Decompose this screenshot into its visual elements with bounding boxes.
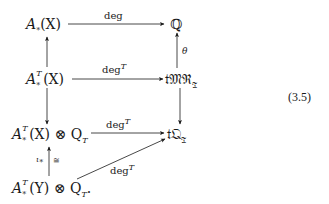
node-rationals: ℚ — [170, 16, 182, 32]
node-a-star-x-arg: (X) — [40, 16, 61, 32]
label-iota-star: ι* — [36, 154, 43, 166]
label-deg-top: deg — [104, 10, 123, 22]
node-rationals-text: ℚ — [170, 16, 182, 32]
label-degT-lower-sup: T — [125, 117, 130, 126]
label-degT-lower-text: deg — [106, 119, 125, 130]
label-iota-sub: * — [39, 158, 43, 167]
node-atyq-arg: (Y) ⊗ Q — [29, 180, 81, 196]
node-a-star-t-y-tensor-q: AT*(Y) ⊗ QT. — [12, 180, 91, 196]
equation-number: (3.5) — [288, 90, 311, 105]
label-iso-text: ≅ — [53, 156, 60, 165]
node-atxq-qsub: T — [82, 136, 87, 145]
node-tmr: 𝔱𝔐ℜ𝔗 — [165, 71, 197, 87]
node-atyq-trail: . — [87, 180, 91, 196]
node-atyq-base: A — [12, 180, 22, 196]
node-tq-text: 𝔱𝔔 — [167, 126, 181, 142]
label-degT-middle: degT — [102, 64, 126, 76]
label-degT-lower: degT — [106, 119, 130, 131]
label-theta: θ — [182, 45, 187, 57]
label-isomorphic: ≅ — [53, 155, 60, 167]
node-a-star-x: A*(X) — [26, 16, 61, 32]
node-tmr-text: 𝔱𝔐ℜ — [165, 71, 192, 87]
label-degT-diagonal: degT — [110, 165, 134, 177]
label-degT-diagonal-sup: T — [129, 163, 134, 172]
node-a-star-t-x: AT*(X) — [26, 71, 64, 87]
node-atxq-base: A — [12, 126, 22, 142]
equation-number-text: (3.5) — [288, 90, 311, 104]
node-tmr-sub: 𝔗 — [192, 81, 197, 90]
node-a-star-t-x-tensor-q: AT*(X) ⊗ QT — [12, 126, 87, 142]
node-tq: 𝔱𝔔𝔗 — [167, 126, 186, 142]
node-a-star-x-base: A — [26, 16, 36, 32]
label-degT-diagonal-text: deg — [110, 165, 129, 176]
label-theta-text: θ — [182, 46, 187, 56]
label-deg-top-text: deg — [104, 10, 123, 21]
node-tq-sub: 𝔗 — [181, 136, 186, 145]
node-a-star-t-x-arg: (X) — [43, 71, 64, 87]
label-degT-middle-sup: T — [121, 62, 126, 71]
label-degT-middle-text: deg — [102, 64, 121, 75]
node-atxq-arg: (X) ⊗ Q — [29, 126, 82, 142]
node-a-star-t-x-base: A — [26, 71, 36, 87]
